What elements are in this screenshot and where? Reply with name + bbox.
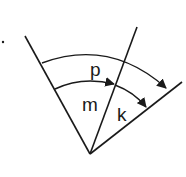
label-p: p xyxy=(90,59,101,80)
label-k: k xyxy=(117,104,127,125)
arc-m xyxy=(55,81,114,89)
label-m: m xyxy=(82,94,98,115)
stray-dot xyxy=(2,41,4,43)
angle-diagram: p m k xyxy=(0,0,186,177)
left-ray xyxy=(25,36,90,154)
arc-p xyxy=(42,55,166,88)
